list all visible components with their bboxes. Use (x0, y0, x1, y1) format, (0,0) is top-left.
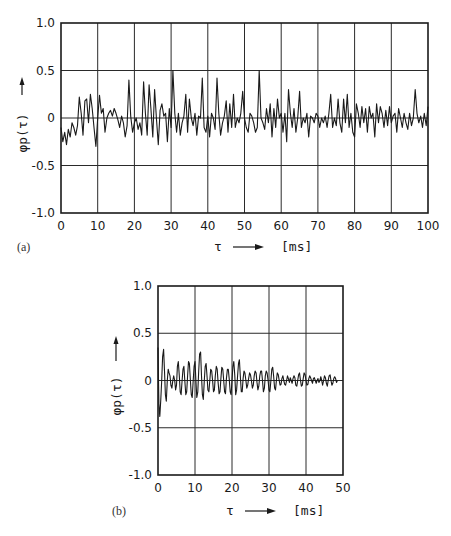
y-axis-label-a: φp(τ) (15, 113, 30, 152)
x-axis-label-a: τ (214, 239, 222, 254)
y-tick-label: 1.0 (133, 279, 152, 293)
y-ticks-b: 1.00.50-0.5-1.0 (129, 279, 152, 482)
x-tick-label: 30 (163, 219, 178, 233)
x-tick-label: 30 (261, 481, 276, 495)
x-tick-label: 20 (224, 481, 239, 495)
x-ticks-a: 0102030405060708090100 (57, 219, 439, 233)
y-tick-label: 1.0 (36, 16, 55, 30)
x-tick-label: 10 (187, 481, 202, 495)
y-tick-label: -1.0 (32, 206, 55, 220)
y-axis-arrow-b (114, 336, 119, 361)
x-tick-label: 40 (200, 219, 215, 233)
y-ticks-a: 1.00.50-0.5-1.0 (32, 16, 55, 220)
chart-panel-a: 1.00.50-0.5-1.0 0102030405060708090100 (… (15, 16, 439, 254)
y-tick-label: 0.5 (36, 64, 55, 78)
x-tick-label: 20 (127, 219, 142, 233)
x-tick-label: 0 (57, 219, 65, 233)
y-tick-label: -1.0 (129, 468, 152, 482)
x-tick-label: 80 (347, 219, 362, 233)
y-axis-arrow-a (20, 77, 25, 95)
panel-label-b: (b) (112, 504, 126, 518)
x-tick-label: 50 (237, 219, 252, 233)
x-tick-label: 100 (417, 219, 440, 233)
y-tick-label: 0 (144, 374, 152, 388)
x-ticks-b: 01020304050 (154, 481, 350, 495)
y-tick-label: -0.5 (129, 421, 152, 435)
x-axis-label-b: τ (226, 503, 234, 518)
chart-panel-b: 1.00.50-0.5-1.0 01020304050 (b) τ [ms] φ… (109, 279, 351, 518)
x-axis-arrow-a (233, 244, 264, 250)
x-tick-label: 70 (310, 219, 325, 233)
x-tick-label: 90 (384, 219, 399, 233)
x-tick-label: 50 (335, 481, 350, 495)
figure: 1.00.50-0.5-1.0 0102030405060708090100 (… (0, 0, 451, 536)
x-axis-arrow-b (245, 508, 276, 514)
y-axis-label-b: φp(τ) (109, 376, 124, 415)
y-tick-label: 0 (47, 111, 55, 125)
x-tick-label: 60 (274, 219, 289, 233)
x-tick-label: 10 (90, 219, 105, 233)
x-axis-unit-a: [ms] (281, 239, 312, 254)
y-tick-label: 0.5 (133, 326, 152, 340)
x-tick-label: 0 (154, 481, 162, 495)
x-tick-label: 40 (298, 481, 313, 495)
y-tick-label: -0.5 (32, 159, 55, 173)
panel-label-a: (a) (17, 240, 30, 254)
x-axis-unit-b: [ms] (293, 503, 324, 518)
series-line-b (158, 347, 337, 416)
